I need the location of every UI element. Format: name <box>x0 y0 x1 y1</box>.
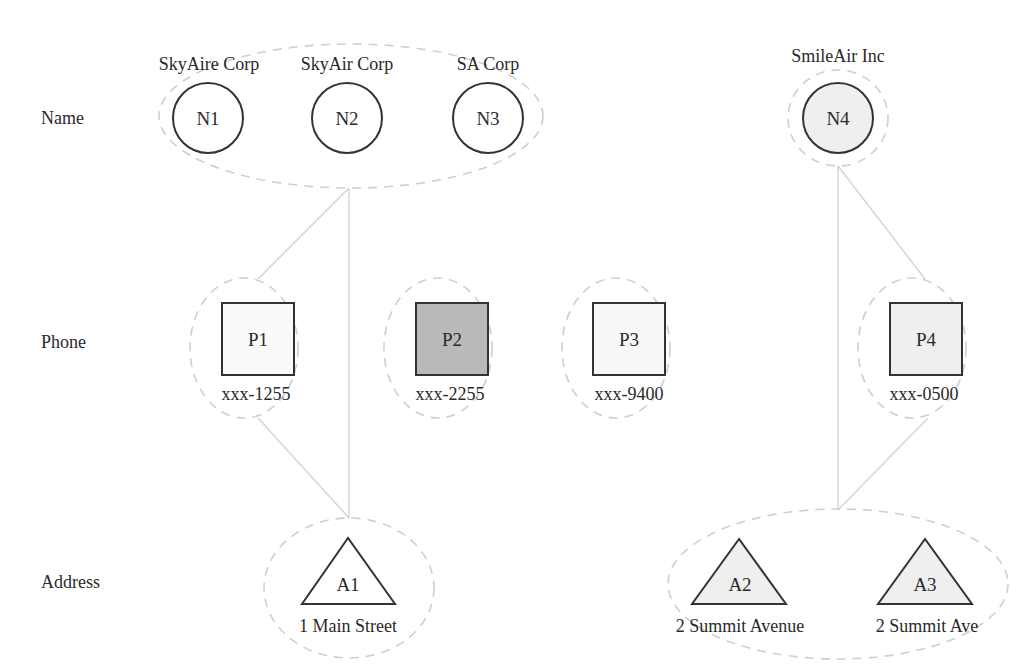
node-id: A3 <box>913 574 936 595</box>
entity-resolution-diagram: Name Phone Address SkyAire Corp N1 SkyAi… <box>0 0 1024 672</box>
node-P1[interactable]: P1 xxx-1255 <box>222 303 295 404</box>
node-caption: SkyAire Corp <box>159 54 260 74</box>
node-id: P4 <box>916 329 937 350</box>
node-caption: xxx-1255 <box>222 384 291 404</box>
node-P3[interactable]: P3 xxx-9400 <box>593 303 665 404</box>
node-P4[interactable]: P4 xxx-0500 <box>890 303 963 404</box>
node-N4[interactable]: SmileAir Inc N4 <box>791 46 884 153</box>
node-id: A2 <box>728 574 751 595</box>
node-caption: xxx-0500 <box>890 384 959 404</box>
node-id: A1 <box>336 574 359 595</box>
node-caption: 2 Summit Ave <box>876 616 979 636</box>
row-label-address: Address <box>41 572 100 592</box>
edge-phonegroup1-addressgroup1 <box>258 418 349 518</box>
node-caption: xxx-2255 <box>416 384 485 404</box>
node-N3[interactable]: SA Corp N3 <box>453 54 523 153</box>
edge-namegroup2-phonegroup4 <box>838 166 925 279</box>
node-id: N1 <box>196 108 219 129</box>
node-A1[interactable]: A1 1 Main Street <box>299 538 397 636</box>
node-caption: 2 Summit Avenue <box>676 616 805 636</box>
edge-phonegroup4-addressgroup2 <box>838 418 928 510</box>
node-caption: xxx-9400 <box>595 384 664 404</box>
node-P2[interactable]: P2 xxx-2255 <box>416 303 489 404</box>
node-id: N4 <box>826 108 850 129</box>
node-N2[interactable]: SkyAir Corp N2 <box>301 54 394 153</box>
node-id: N3 <box>476 108 499 129</box>
node-id: P1 <box>248 329 268 350</box>
node-caption: SmileAir Inc <box>791 46 884 66</box>
node-caption: SkyAir Corp <box>301 54 394 74</box>
node-A3[interactable]: A3 2 Summit Ave <box>876 539 979 636</box>
row-label-phone: Phone <box>41 332 86 352</box>
node-A2[interactable]: A2 2 Summit Avenue <box>676 539 805 636</box>
row-labels: Name Phone Address <box>41 108 100 592</box>
node-id: P3 <box>619 329 639 350</box>
row-label-name: Name <box>41 108 84 128</box>
node-id: P2 <box>442 329 462 350</box>
node-N1[interactable]: SkyAire Corp N1 <box>159 54 260 153</box>
node-caption: 1 Main Street <box>299 616 397 636</box>
node-id: N2 <box>335 108 358 129</box>
node-caption: SA Corp <box>457 54 520 74</box>
edge-namegroup1-phonegroup1 <box>258 188 349 279</box>
